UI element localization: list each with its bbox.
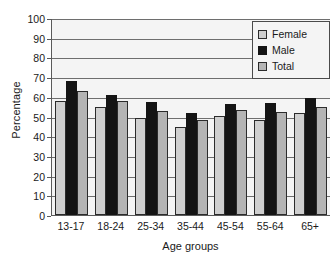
legend-item: Total [258,58,324,74]
y-axis-tick-label: 50 [5,112,45,124]
bar-chart: Percentage 1009080706050403020100 13-171… [0,0,335,261]
bar-female-25-34 [135,118,146,215]
bar-female-65+ [294,113,305,215]
bar-female-55-64 [254,120,265,215]
y-axis-tick-label: 10 [5,190,45,202]
legend-label: Female [272,28,307,40]
bar-total-55-64 [276,112,287,215]
y-axis-tick-label: 80 [5,52,45,64]
bar-male-35-44 [186,113,197,215]
bar-total-65+ [316,107,327,215]
y-axis-tick-label: 100 [5,13,45,25]
legend-item: Male [258,42,324,58]
legend-label: Male [272,44,295,56]
y-axis-tick-label: 0 [5,210,45,222]
bar-male-25-34 [146,102,157,215]
bar-male-55-64 [265,103,276,215]
bar-male-13-17 [66,81,77,215]
x-axis-tick-label: 25-34 [131,220,171,236]
y-axis-tick-label: 40 [5,131,45,143]
y-axis-tick-label: 60 [5,92,45,104]
x-axis-tick-label: 55-64 [250,220,290,236]
x-axis-tick-label: 35-44 [171,220,211,236]
x-axis-tick-label: 45-54 [210,220,250,236]
bar-total-45-54 [236,110,247,215]
y-axis-tick-mark [47,216,51,217]
x-axis-tick-label: 13-17 [51,220,91,236]
y-axis-tick-label: 90 [5,33,45,45]
x-axis-tick-labels: 13-1718-2425-3435-4445-5455-6465+ [51,220,330,236]
bar-group [92,19,132,215]
bar-total-13-17 [77,91,88,215]
y-axis-tick-label: 30 [5,151,45,163]
bar-total-35-44 [197,120,208,215]
bar-group [52,19,92,215]
legend-label: Total [272,60,294,72]
y-axis-tick-label: 70 [5,72,45,84]
bar-group [211,19,251,215]
x-axis-tick-label: 65+ [290,220,330,236]
bar-female-35-44 [175,127,186,215]
bar-female-13-17 [55,101,66,215]
legend: FemaleMaleTotal [252,21,330,79]
bar-total-25-34 [157,111,168,215]
bar-female-45-54 [214,116,225,215]
legend-swatch-female [258,30,267,39]
legend-swatch-total [258,62,267,71]
bar-male-45-54 [225,104,236,215]
legend-item: Female [258,26,324,42]
bar-female-18-24 [95,107,106,215]
bar-total-18-24 [117,101,128,215]
bar-group [131,19,171,215]
x-axis-title: Age groups [51,240,330,252]
x-axis-tick-label: 18-24 [91,220,131,236]
bar-male-65+ [305,98,316,215]
bar-male-18-24 [106,95,117,215]
y-axis-tick-label: 20 [5,171,45,183]
bar-group [171,19,211,215]
legend-swatch-male [258,46,267,55]
